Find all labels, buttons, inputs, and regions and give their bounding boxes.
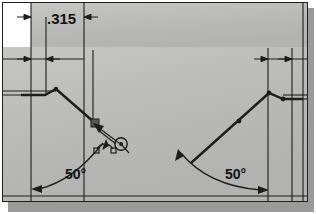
angle-label-left: 50° — [65, 166, 86, 182]
paper-texture-body — [3, 47, 307, 201]
drawing-canvas[interactable]: .315 50° 50° — [3, 3, 307, 201]
dimension-label-315: .315 — [47, 10, 76, 27]
right-profile-edge-node[interactable] — [281, 97, 286, 102]
angle-label-right: 50° — [225, 166, 246, 182]
right-profile-midpoint-node[interactable] — [237, 119, 242, 124]
drawing-viewport: .315 50° 50° — [0, 0, 316, 214]
left-profile-vertex-node[interactable] — [54, 87, 58, 91]
corner-white-patch — [3, 3, 31, 47]
right-profile-vertex-node[interactable] — [267, 91, 272, 96]
drawing-frame: .315 50° 50° — [2, 2, 308, 202]
